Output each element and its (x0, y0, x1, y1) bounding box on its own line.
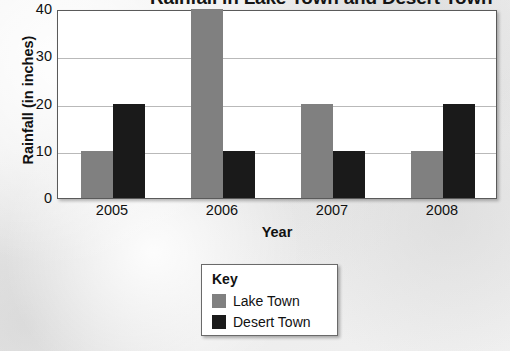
bar (411, 151, 443, 198)
legend-swatch-icon (212, 294, 226, 308)
bar (113, 104, 145, 199)
x-tick-label: 2007 (277, 203, 387, 218)
bar-group (81, 11, 145, 198)
legend-swatch-icon (212, 315, 226, 329)
bar-group (301, 11, 365, 198)
y-tick-label: 0 (18, 191, 52, 206)
x-tick-label: 2005 (57, 203, 167, 218)
bar (81, 151, 113, 198)
rainfall-bar-chart: Rainfall in Lake Town and Desert Town Ra… (0, 0, 510, 351)
bar (333, 151, 365, 198)
y-tick-label: 30 (18, 49, 52, 64)
y-tick-label: 10 (18, 144, 52, 159)
bar (301, 104, 333, 199)
legend-item: Lake Town (212, 291, 337, 312)
plot-area (57, 10, 497, 199)
legend-items: Lake TownDesert Town (212, 291, 337, 333)
x-tick-label: 2006 (167, 203, 277, 218)
legend-label: Desert Town (233, 314, 311, 330)
y-tick-label: 40 (18, 2, 52, 17)
legend: Key Lake TownDesert Town (201, 264, 338, 336)
bar (223, 151, 255, 198)
legend-item: Desert Town (212, 312, 337, 333)
y-axis-tick-labels: 010203040 (12, 0, 52, 351)
y-tick-label: 20 (18, 97, 52, 112)
bar-group (191, 11, 255, 198)
bar (191, 9, 223, 198)
legend-title: Key (212, 271, 337, 288)
legend-label: Lake Town (233, 293, 300, 309)
x-axis-title: Year (57, 224, 497, 240)
bar-group (411, 11, 475, 198)
bars-layer (58, 11, 496, 198)
bar (443, 104, 475, 199)
x-tick-label: 2008 (387, 203, 497, 218)
chart-title: Rainfall in Lake Town and Desert Town (150, 0, 510, 9)
